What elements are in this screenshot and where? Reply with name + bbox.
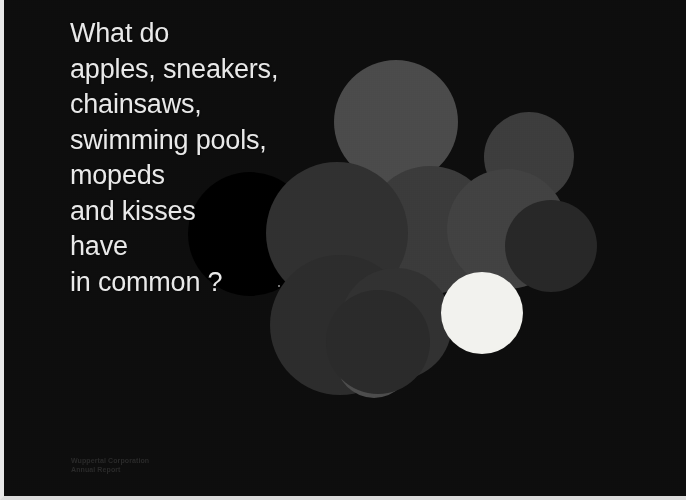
- headline-line-4: swimming pools,: [70, 123, 490, 159]
- headline-line-7: have: [70, 229, 490, 265]
- headline-line-8: in common ?: [70, 265, 490, 301]
- credit-line-1: Wuppertal Corporation: [71, 456, 149, 465]
- bubble-right-dark: [505, 200, 597, 292]
- headline-line-1: What do: [70, 16, 490, 52]
- headline-text: What doapples, sneakers,chainsaws,swimmi…: [70, 16, 490, 300]
- poster-slide: What doapples, sneakers,chainsaws,swimmi…: [0, 0, 686, 500]
- credit-line-2: Annual Report: [71, 465, 149, 474]
- headline-line-3: chainsaws,: [70, 87, 490, 123]
- credit-text: Wuppertal CorporationAnnual Report: [71, 456, 149, 474]
- bubble-bottom-dark: [326, 290, 430, 394]
- headline-line-2: apples, sneakers,: [70, 52, 490, 88]
- headline-line-5: mopeds: [70, 158, 490, 194]
- headline-line-6: and kisses: [70, 194, 490, 230]
